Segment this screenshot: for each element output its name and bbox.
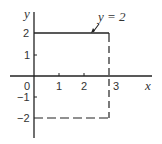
annotation-arrowhead <box>91 28 95 33</box>
x-tick-label-2: 2 <box>81 80 87 92</box>
y-tick-label-neg2: −2 <box>17 112 30 124</box>
x-axis-label: x <box>144 78 151 93</box>
graph-figure: y x y = 2 0 1 2 3 2 1 −1 −2 <box>0 0 162 144</box>
x-tick-label-1: 1 <box>56 80 62 92</box>
y-axis-label: y <box>22 6 30 21</box>
x-tick-label-3: 3 <box>113 80 119 92</box>
y-tick-label-1: 1 <box>24 49 30 61</box>
annotation-label: y = 2 <box>96 9 126 24</box>
y-tick-label-neg1: −1 <box>17 91 30 103</box>
y-tick-label-2: 2 <box>23 27 29 39</box>
